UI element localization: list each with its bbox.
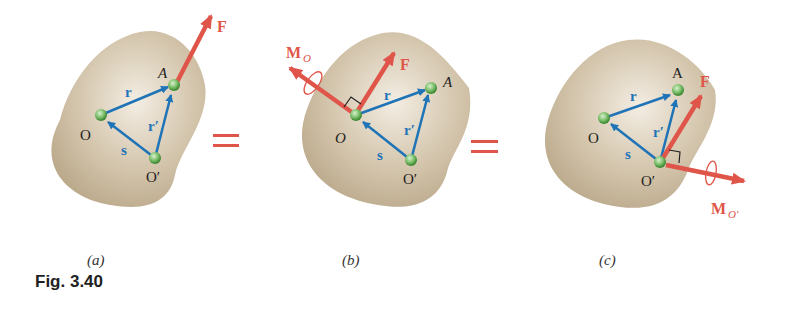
label-r-prime: r′ [148,118,159,134]
panel-label-c: (c) [599,252,616,269]
label-r: r [384,87,391,103]
label-A: A [157,65,168,81]
label-O-prime: O′ [146,169,160,185]
label-F: F [700,73,710,90]
panel-a: O A O′ r r′ s F (a) [51,16,227,269]
panel-b: O A O′ r r′ s F M O (b) [286,32,470,269]
label-s: s [121,142,127,158]
point-A [425,82,437,94]
point-O [95,109,107,121]
point-O-prime [654,156,666,168]
label-s: s [625,146,631,162]
point-O-prime [405,154,417,166]
figure-caption: Fig. 3.40 [35,272,103,292]
label-O: O [335,130,346,146]
label-A: A [442,74,453,90]
label-F: F [400,56,410,73]
label-M: M [711,200,726,217]
panel-c: O A O′ r r′ s F M O′ (c) [545,39,744,269]
rigid-body [302,32,470,207]
label-F: F [217,18,227,35]
label-O-prime: O′ [641,173,655,189]
label-r-prime: r′ [653,124,664,140]
label-O: O [80,127,91,143]
label-r-prime: r′ [404,122,415,138]
label-M-sub: O [303,52,311,64]
point-O-prime [149,152,161,164]
label-s: s [377,147,383,163]
point-A [168,79,180,91]
label-O-prime: O′ [403,171,417,187]
equals-sign-1 [213,134,239,147]
point-A [672,84,684,96]
label-M-sub: O′ [728,208,739,220]
point-O [350,109,362,121]
label-M: M [286,44,301,61]
equals-sign-2 [471,140,498,153]
label-r: r [630,88,637,104]
label-O: O [588,130,599,146]
panel-label-a: (a) [87,252,105,269]
label-A: A [672,65,683,81]
rigid-body [545,39,716,207]
figure-canvas: O A O′ r r′ s F (a) O A O′ r r′ s F M O … [0,0,789,311]
panel-label-b: (b) [342,252,360,269]
rigid-body [51,31,205,207]
point-O [598,112,610,124]
label-r: r [125,84,132,100]
